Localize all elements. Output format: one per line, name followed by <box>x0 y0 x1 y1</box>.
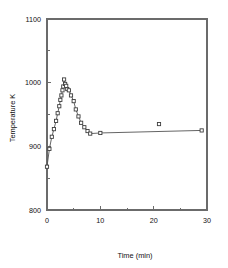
data-point-marker <box>77 115 80 118</box>
x-tick-label: 0 <box>45 216 49 225</box>
x-axis-title: Time (min) <box>117 251 152 260</box>
data-point-marker <box>62 78 65 81</box>
chart-figure: 80090010001100 0102030 Time (min) Temper… <box>0 0 228 268</box>
data-point-marker <box>45 165 48 168</box>
data-point-marker <box>48 147 51 150</box>
x-axis-tick-labels: 0102030 <box>45 216 211 225</box>
plot-frame <box>47 19 207 210</box>
data-point-marker <box>58 105 61 108</box>
outlier-series-markers <box>157 122 160 125</box>
temperature-series-markers <box>45 78 203 168</box>
y-tick-label: 1100 <box>26 15 41 24</box>
data-point-marker <box>60 94 63 97</box>
y-tick-label: 1000 <box>25 78 41 87</box>
x-tick-label: 30 <box>203 216 211 225</box>
temperature-series-line <box>47 79 202 166</box>
data-point-marker <box>50 135 53 138</box>
x-tick-label: 20 <box>150 216 158 225</box>
data-point-marker <box>83 126 86 129</box>
data-point-marker <box>72 100 75 103</box>
data-point-marker <box>67 89 70 92</box>
data-point-marker <box>54 119 57 122</box>
outlier-point-marker <box>157 122 160 125</box>
data-point-marker <box>56 112 59 115</box>
data-point-marker <box>80 121 83 124</box>
y-tick-label: 900 <box>29 142 41 151</box>
temperature-time-line-chart: 80090010001100 0102030 Time (min) Temper… <box>0 0 228 268</box>
data-point-marker <box>99 131 102 134</box>
data-point-marker <box>89 132 92 135</box>
data-point-marker <box>52 128 55 131</box>
x-tick-label: 10 <box>96 216 104 225</box>
data-point-marker <box>61 89 64 92</box>
y-axis-tick-labels: 80090010001100 <box>25 15 41 215</box>
data-point-marker <box>59 98 62 101</box>
data-point-marker <box>200 129 203 132</box>
data-point-marker <box>74 108 77 111</box>
data-point-marker <box>69 94 72 97</box>
y-axis-title: Temperature K <box>8 94 17 143</box>
y-tick-label: 800 <box>29 206 41 215</box>
data-point-marker <box>65 84 68 87</box>
